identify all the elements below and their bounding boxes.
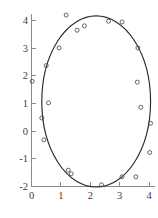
y-tick-label: 2 — [23, 70, 28, 81]
data-point-marker — [69, 172, 73, 176]
data-point-marker — [134, 175, 138, 179]
axes-group — [32, 14, 156, 187]
data-point-marker — [139, 105, 143, 109]
scatter-plot-canvas: -2-101234 01234 — [0, 0, 158, 218]
y-tick-label: 4 — [23, 15, 29, 26]
y-axis-ticks: -2-101234 — [19, 15, 36, 192]
data-point-marker — [120, 20, 124, 24]
y-tick-label: -1 — [19, 153, 28, 164]
data-point-marker — [30, 79, 34, 83]
fitted-ellipse-group — [42, 16, 151, 187]
caption-strip: . — [0, 208, 158, 218]
data-point-marker — [82, 24, 86, 28]
x-tick-label: 4 — [146, 190, 152, 201]
fitted-ellipse-curve — [42, 16, 151, 187]
data-point-marker — [57, 46, 61, 50]
data-point-marker — [66, 168, 70, 172]
x-tick-label: 3 — [117, 190, 122, 201]
x-axis-ticks: 01234 — [29, 182, 153, 201]
caption-ghost-text: . — [0, 208, 158, 218]
data-point-marker — [64, 13, 68, 17]
data-point-marker — [107, 19, 111, 23]
x-tick-label: 1 — [58, 190, 63, 201]
y-tick-label: 1 — [23, 98, 28, 109]
x-tick-label: 0 — [29, 190, 34, 201]
data-point-marker — [47, 101, 51, 105]
y-tick-label: -2 — [19, 181, 28, 192]
figure-container: -2-101234 01234 . — [0, 0, 158, 218]
x-tick-label: 2 — [88, 190, 93, 201]
data-point-marker — [135, 80, 139, 84]
data-points-group — [30, 13, 152, 187]
data-point-marker — [148, 151, 152, 155]
data-point-marker — [75, 28, 79, 32]
y-tick-label: 0 — [23, 126, 28, 137]
data-point-marker — [42, 138, 46, 142]
y-tick-label: 3 — [23, 43, 28, 54]
